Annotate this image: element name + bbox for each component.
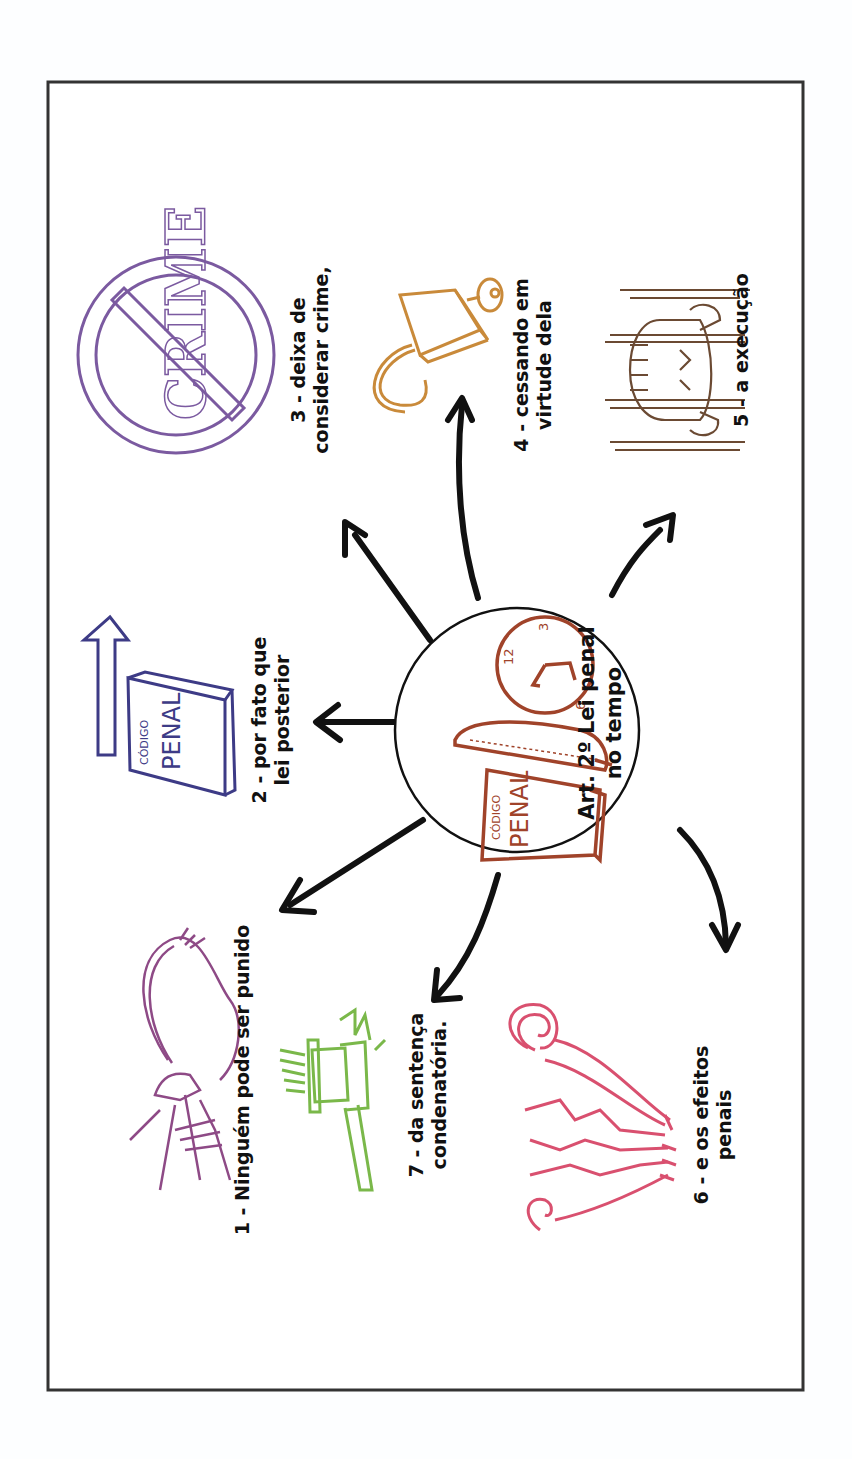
center-title-line2: no tempo — [601, 598, 628, 848]
node-4-line2: virtude dela — [533, 260, 556, 470]
diagram-canvas: 12 3 6 CÓDIGO PENAL CÓDIGO PENAL — [0, 0, 852, 1459]
node-5-label: 5 - a execução — [730, 250, 753, 450]
node-3-line1: 3 - deixa de — [287, 255, 310, 465]
node-6-label: 6 - e os efeitos penais — [690, 1025, 736, 1225]
center-book-label-small: CÓDIGO — [490, 794, 503, 840]
node-4-line1: 4 - cessando em — [510, 260, 533, 470]
node-2-line1: 2 - por fato que — [248, 620, 271, 820]
node-2-label: 2 - por fato que lei posterior — [248, 620, 294, 820]
node-2-line2: lei posterior — [271, 620, 294, 820]
crime-sign-text: CRIME — [154, 206, 218, 420]
node-6-line1: 6 - e os efeitos — [690, 1025, 713, 1225]
center-title-line1: Art. 2º Lei penal — [574, 598, 601, 848]
clock-number-3: 3 — [536, 623, 551, 631]
center-book-label-big: PENAL — [506, 770, 534, 848]
clock-number-12: 12 — [501, 648, 516, 665]
node-5-line1: 5 - a execução — [730, 250, 753, 450]
book-2-label-small: CÓDIGO — [138, 719, 151, 765]
node-3-line2: considerar crime, — [310, 255, 333, 465]
book-2-label-big: PENAL — [158, 692, 186, 770]
node-1-label: 1 - Ninguém pode ser punido — [231, 920, 254, 1240]
center-title: Art. 2º Lei penal no tempo — [574, 598, 628, 848]
node-7-line2: condenatória. — [428, 985, 451, 1205]
node-6-line2: penais — [713, 1025, 736, 1225]
node-1-line1: 1 - Ninguém pode ser punido — [231, 920, 254, 1240]
node-3-label: 3 - deixa de considerar crime, — [287, 255, 333, 465]
node-7-line1: 7 - da sentença — [405, 985, 428, 1205]
node-7-label: 7 - da sentença condenatória. — [405, 985, 451, 1205]
node-4-label: 4 - cessando em virtude dela — [510, 260, 556, 470]
